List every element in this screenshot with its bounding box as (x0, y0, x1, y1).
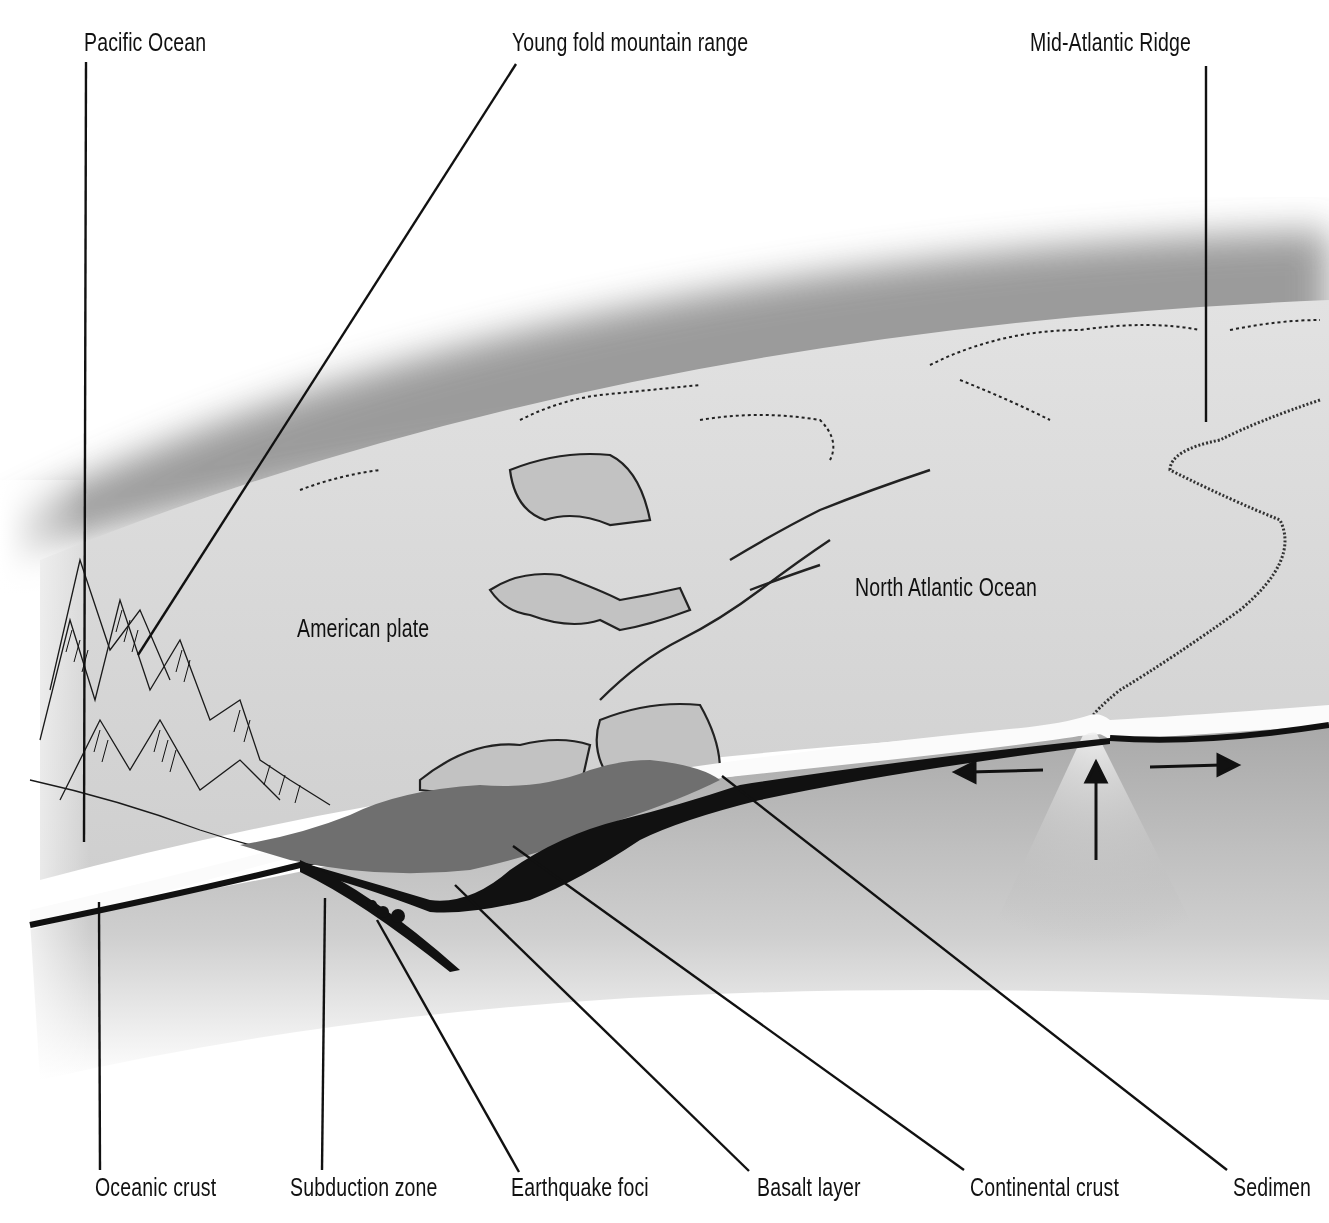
label-sediment: Sedimen (1233, 1173, 1311, 1202)
label-oceanic-crust: Oceanic crust (95, 1173, 216, 1202)
label-pacific-ocean: Pacific Ocean (84, 28, 206, 57)
label-north-atlantic-ocean: North Atlantic Ocean (855, 573, 1037, 602)
diagram-illustration (0, 0, 1329, 1223)
label-continental-crust: Continental crust (970, 1173, 1119, 1202)
label-young-fold-mountain-range: Young fold mountain range (512, 28, 748, 57)
label-earthquake-foci: Earthquake foci (511, 1173, 649, 1202)
label-subduction-zone: Subduction zone (290, 1173, 438, 1202)
tectonics-diagram: Pacific Ocean Young fold mountain range … (0, 0, 1329, 1223)
label-mid-atlantic-ridge: Mid-Atlantic Ridge (1030, 28, 1191, 57)
label-basalt-layer: Basalt layer (757, 1173, 861, 1202)
label-american-plate: American plate (297, 614, 429, 643)
